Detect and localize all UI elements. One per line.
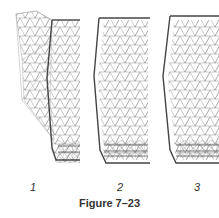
panel-label-2: 2 [117,181,123,193]
panel-label-1: 1 [30,181,36,193]
mesh-panel-2 [94,18,150,163]
mesh-panel-1 [16,11,80,163]
figure-caption: Figure 7–23 [0,197,219,209]
mesh-figure [0,0,219,170]
mesh-panel-3 [163,16,219,163]
panel-label-3: 3 [194,181,200,193]
